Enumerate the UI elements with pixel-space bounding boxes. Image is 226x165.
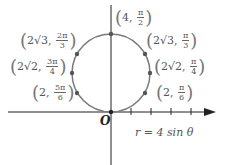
point-label-2r2-3pi-4: (2√2, 3π4) (10, 57, 66, 76)
axis-arrow-icon (204, 108, 216, 116)
origin-label: O (100, 114, 110, 128)
point-label-2-5pi-6: (2, 5π6) (32, 83, 74, 102)
point-label-2-pi-6: (2, π6) (156, 83, 193, 102)
equation-label: r = 4 sin θ (135, 126, 193, 139)
point-label-2r3-pi-3: (2√3, π3) (146, 31, 197, 50)
point-label-2r2-pi-4: (2√2, π4) (154, 57, 205, 76)
point-label-2r3-2pi-3: (2√3, 2π3) (20, 31, 76, 50)
point-label-4-pi-2: (4, π2) (115, 8, 152, 27)
